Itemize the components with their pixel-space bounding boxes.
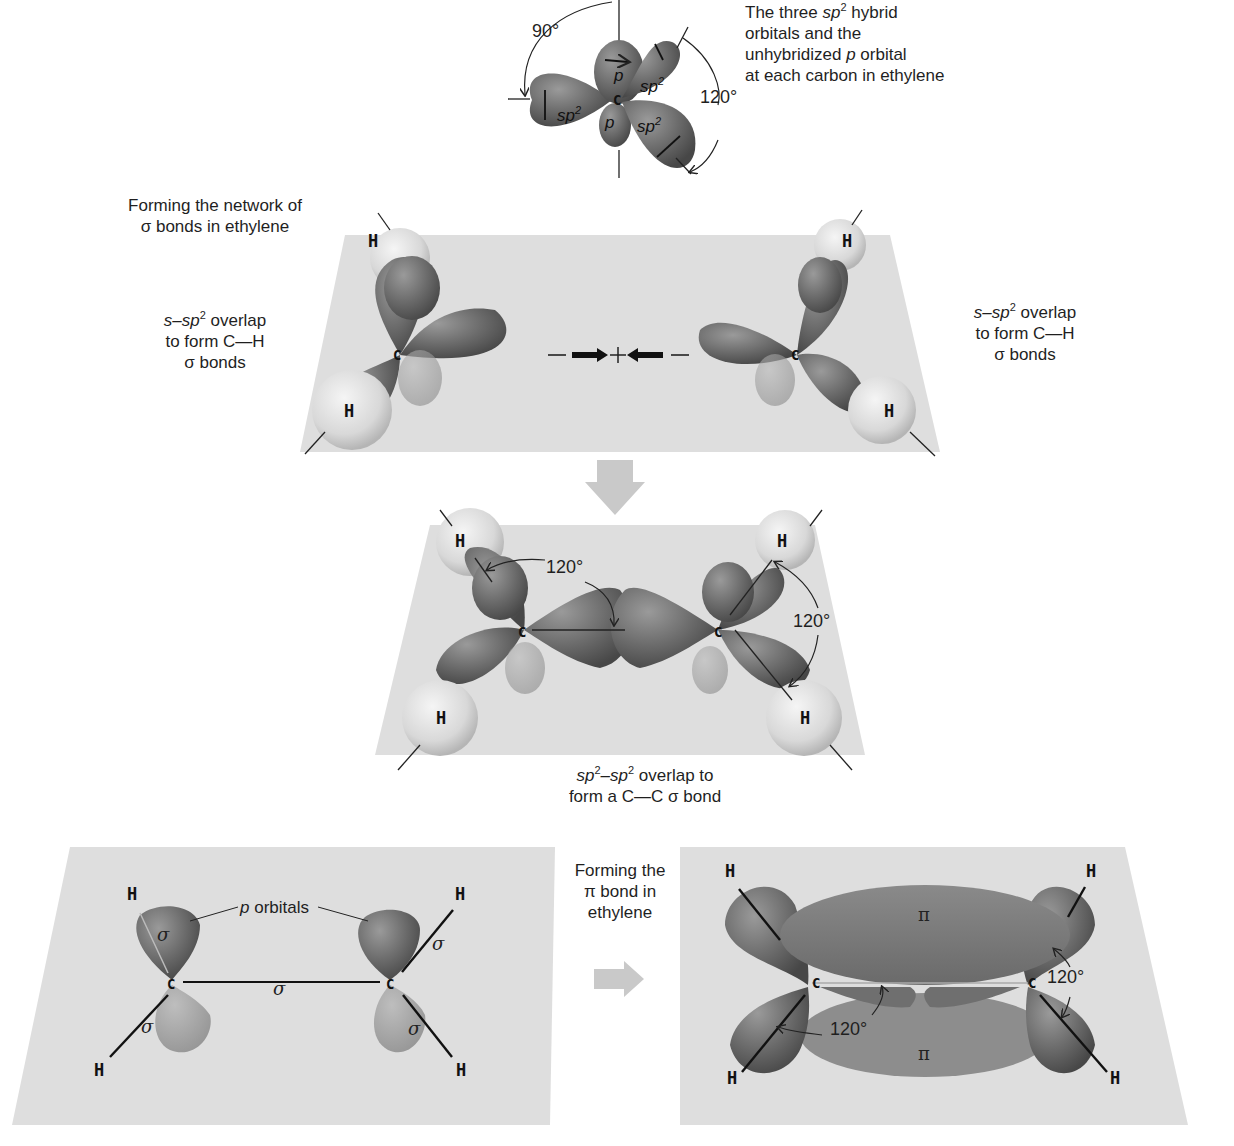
hydrogen-atom-label: H <box>344 403 354 420</box>
hydrogen-atom-label: H <box>725 863 735 880</box>
hydrogen-atom-label: H <box>1110 1070 1120 1087</box>
pi-bond-label-top: π <box>918 906 930 924</box>
hydrogen-atom-label: H <box>368 233 378 250</box>
carbon-atom-label: C <box>613 92 621 109</box>
cc-sigma-bond-diagram <box>0 490 1234 780</box>
hydrogen-atom-label: H <box>94 1062 104 1079</box>
sp2-caption-line-3: unhybridized p orbital <box>745 44 944 65</box>
sp2-label-upper-right: sp2 <box>640 78 664 95</box>
hydrogen-atom-label: H <box>777 533 787 550</box>
transition-line-3: ethylene <box>555 902 685 923</box>
s-sp2-overlap-note-left: s–sp2 overlap to form C—H σ bonds <box>140 310 290 373</box>
sigma-label: σ <box>157 926 169 944</box>
hydrogen-atom-label: H <box>1086 863 1096 880</box>
sp2-caption: The three sp2 hybrid orbitals and the un… <box>745 2 944 86</box>
hydrogen-atom-label: H <box>455 886 465 903</box>
caption-line-1: sp2–sp2 overlap to <box>520 765 770 786</box>
hydrogen-atom-label: H <box>436 710 446 727</box>
pi-bond-diagram <box>680 845 1234 1145</box>
hydrogen-atom-label: H <box>727 1070 737 1087</box>
carbon-atom-label: C <box>1028 975 1036 992</box>
sigma-label: σ <box>273 980 285 998</box>
hydrogen-atom-label: H <box>800 710 810 727</box>
p-orbital-label-bottom: p <box>605 114 614 131</box>
caption-line-2: form a C—C σ bond <box>520 786 770 807</box>
hydrogen-atom-label: H <box>842 233 852 250</box>
carbon-atom-label: C <box>386 976 394 993</box>
pi-bond-transition-label: Forming the π bond in ethylene <box>555 860 685 923</box>
transition-line-1: Forming the <box>555 860 685 881</box>
hydrogen-atom-label: H <box>455 533 465 550</box>
carbon-atom-label: C <box>812 975 820 992</box>
sp2-label-left: sp2 <box>557 107 581 124</box>
carbon-atom-label: C <box>791 347 799 364</box>
sigma-label: σ <box>432 935 444 953</box>
angle-120-label-right: 120° <box>1047 968 1084 986</box>
note-line-1: s–sp2 overlap <box>140 310 290 331</box>
note-line-3: σ bonds <box>140 352 290 373</box>
sp2-sp2-overlap-caption: sp2–sp2 overlap to form a C—C σ bond <box>520 765 770 807</box>
note-line-1: s–sp2 overlap <box>950 302 1100 323</box>
sp2-label-lower-right: sp2 <box>637 118 661 135</box>
note-line-3: σ bonds <box>950 344 1100 365</box>
sp2-caption-line-1: The three sp2 hybrid <box>745 2 944 23</box>
note-line-2: to form C—H <box>950 323 1100 344</box>
p-orbital-label-top: p <box>614 67 623 84</box>
pi-bond-label-bottom: π <box>918 1045 930 1063</box>
transition-line-2: π bond in <box>555 881 685 902</box>
s-sp2-overlap-note-right: s–sp2 overlap to form C—H σ bonds <box>950 302 1100 365</box>
hydrogen-atom-label: H <box>127 886 137 903</box>
angle-120-label-left: 120° <box>830 1020 867 1038</box>
angle-120-label-left: 120° <box>546 558 583 576</box>
angle-120-label: 120° <box>700 88 737 106</box>
carbon-atom-label: C <box>714 624 722 641</box>
carbon-atom-label: C <box>393 347 401 364</box>
hydrogen-atom-label: H <box>884 403 894 420</box>
sp2-caption-line-4: at each carbon in ethylene <box>745 65 944 86</box>
hydrogen-atom-label: H <box>456 1062 466 1079</box>
carbon-atom-label: C <box>518 624 526 641</box>
right-arrow-icon <box>594 961 654 1001</box>
carbon-atom-label: C <box>167 976 175 993</box>
note-line-2: to form C—H <box>140 331 290 352</box>
angle-90-label: 90° <box>532 22 559 40</box>
sp2-caption-line-2: orbitals and the <box>745 23 944 44</box>
sigma-label: σ <box>141 1018 153 1036</box>
p-orbitals-label: p orbitals <box>240 897 309 918</box>
sigma-label: σ <box>408 1020 420 1038</box>
angle-120-label-right: 120° <box>793 612 830 630</box>
